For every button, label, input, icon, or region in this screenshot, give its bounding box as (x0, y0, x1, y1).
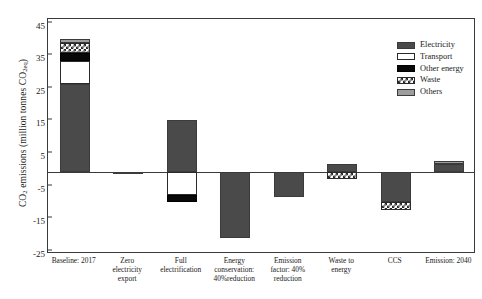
bar-segment-waste[interactable] (381, 202, 411, 210)
legend-item-transport[interactable]: Transport (397, 52, 464, 62)
legend-item-label: Transport (420, 52, 452, 62)
legend-swatch-icon (397, 65, 415, 72)
bar-segment-others[interactable] (60, 39, 90, 44)
bar-segment-other-energy[interactable] (167, 195, 197, 202)
bar-segment-electricity[interactable] (60, 84, 90, 172)
x-axis-label-line: Emission: 2040 (416, 256, 482, 265)
legend-swatch-icon (397, 42, 415, 49)
bar-segment-others[interactable] (434, 161, 464, 164)
legend-item-label: Electricity (420, 40, 455, 50)
bar-segment-electricity[interactable] (113, 172, 143, 174)
legend-item-label: Waste (420, 75, 440, 85)
y-axis-tick-mark (48, 86, 52, 87)
legend-item-electricity[interactable]: Electricity (397, 40, 464, 50)
legend-item-label: Others (420, 87, 442, 97)
y-axis-tick-label: 15 (36, 119, 45, 128)
y-axis-tick-label: 5 (41, 152, 46, 161)
bar-segment-transport[interactable] (60, 61, 90, 84)
y-axis-tick-label: 25 (36, 86, 45, 95)
bar-segment-transport[interactable] (167, 172, 197, 195)
bar-segment-waste[interactable] (60, 43, 90, 53)
y-axis-tick-label: -5 (38, 184, 46, 193)
bar-6[interactable] (327, 19, 357, 252)
y-axis-title-suffix: ) (18, 59, 28, 62)
x-axis-label-line: export (95, 274, 161, 283)
bar-1[interactable] (60, 19, 90, 252)
y-axis-title-sub1: 2 (21, 190, 28, 193)
bar-segment-electricity[interactable] (327, 164, 357, 172)
bar-3[interactable] (167, 19, 197, 252)
bar-segment-other-energy[interactable] (60, 53, 90, 61)
y-axis-tick-mark (48, 21, 52, 22)
x-axis-label-line: reduction (255, 274, 321, 283)
legend-item-others[interactable]: Others (397, 87, 464, 97)
bar-segment-electricity[interactable] (167, 120, 197, 172)
y-axis-tick-mark (48, 250, 52, 251)
y-axis-tick-mark (48, 119, 52, 120)
bar-segment-electricity[interactable] (274, 172, 304, 196)
bar-segment-electricity[interactable] (381, 172, 411, 201)
legend-swatch-icon (397, 53, 415, 60)
legend: ElectricityTransportOther energyWasteOth… (397, 40, 464, 99)
y-axis-title-mid: emissions (million tonnes CO (18, 72, 28, 191)
legend-item-other-energy[interactable]: Other energy (397, 64, 464, 74)
y-axis-tick-mark (48, 217, 52, 218)
x-axis-labels: Baseline: 2017ZeroelectricityexportFulle… (47, 256, 475, 298)
bar-segment-waste[interactable] (327, 172, 357, 179)
co2-emissions-waterfall-chart: CO2 emissions (million tonnes CO2eq) 453… (0, 0, 482, 299)
bar-segment-electricity[interactable] (434, 164, 464, 172)
y-axis-tick-mark (48, 54, 52, 55)
y-axis-title-sub2: 2eq (21, 62, 28, 72)
x-axis-label-8: Emission: 2040 (416, 256, 482, 265)
y-axis-tick-label: 45 (36, 21, 45, 30)
legend-swatch-icon (397, 77, 415, 84)
bar-2[interactable] (113, 19, 143, 252)
legend-item-label: Other energy (420, 64, 464, 74)
legend-item-waste[interactable]: Waste (397, 75, 464, 85)
bar-4[interactable] (220, 19, 250, 252)
legend-swatch-icon (397, 89, 415, 96)
y-axis-title-prefix: CO (18, 194, 28, 207)
y-axis-tick-label: 35 (36, 54, 45, 63)
y-axis-tick-mark (48, 184, 52, 185)
y-axis-tick-label: -15 (33, 217, 45, 226)
y-axis-tick-mark (48, 152, 52, 153)
bar-5[interactable] (274, 19, 304, 252)
bar-segment-electricity[interactable] (220, 172, 250, 237)
plot-area: 453525155-5-15-25 ElectricityTransportOt… (47, 18, 475, 253)
x-axis-label-line: energy (309, 265, 375, 274)
y-axis-title: CO2 emissions (million tonnes CO2eq) (18, 18, 28, 248)
